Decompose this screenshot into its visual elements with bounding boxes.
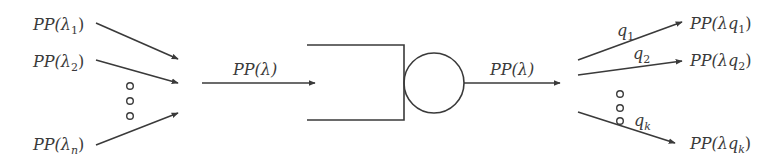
input-arrow-2 [96, 60, 178, 83]
split-arrow-2 [578, 61, 682, 75]
queue [307, 45, 464, 120]
input-arrow-1 [96, 23, 178, 59]
server-output: PP(λ) [464, 60, 560, 83]
output-stream-label-2: PP(λq2) [689, 51, 751, 73]
input-ellipsis-icon [127, 83, 134, 120]
input-arrow-n [96, 113, 178, 145]
merged-input-label: PP(λ) [232, 60, 277, 79]
queue-buffer [307, 45, 404, 120]
poisson-queue-diagram: PP(λ1) PP(λ2) PP(λn) PP(λ) PP(λ) [0, 0, 782, 167]
input-group: PP(λ1) PP(λ2) PP(λn) [32, 15, 178, 157]
output-label: PP(λ) [489, 60, 534, 79]
split-ellipsis-icon [617, 91, 624, 125]
split-prob-1: q1 [617, 21, 634, 43]
split-group: q1 q2 qk PP(λq1) PP(λq2) PP(λqk) [578, 14, 751, 156]
output-stream-label-k: PP(λqk) [689, 134, 751, 156]
merged-input: PP(λ) [202, 60, 315, 83]
split-arrow-k [578, 112, 675, 143]
server-circle [404, 53, 464, 113]
input-label-1: PP(λ1) [32, 15, 84, 37]
split-prob-k: qk [634, 111, 651, 133]
output-stream-label-1: PP(λq1) [689, 14, 751, 36]
input-label-2: PP(λ2) [32, 52, 84, 74]
input-label-n: PP(λn) [32, 135, 84, 157]
split-prob-2: q2 [633, 44, 650, 66]
